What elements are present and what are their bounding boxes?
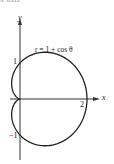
equation-label: r = 1 + cos θ xyxy=(35,46,73,54)
tick-label-y-neg1: −1 xyxy=(9,132,18,140)
tick-label-x-2: 2 xyxy=(80,101,84,109)
tick-label-y-1: 1 xyxy=(13,58,17,66)
x-axis-label: x xyxy=(102,94,106,102)
x-axis-arrow-icon xyxy=(93,97,100,101)
y-axis-label: y xyxy=(18,14,22,22)
